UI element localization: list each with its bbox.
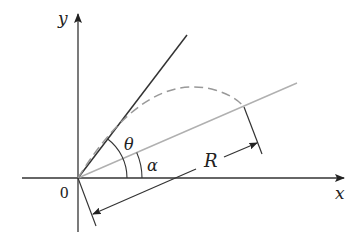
x-axis-label: x xyxy=(335,183,345,203)
launch-direction-line xyxy=(78,35,187,178)
incline-line xyxy=(78,83,297,178)
range-arrow-upper xyxy=(224,143,257,157)
alpha-arc xyxy=(137,153,142,179)
origin-label: 0 xyxy=(60,183,69,202)
theta-label: θ xyxy=(124,135,134,154)
trajectory-dashed xyxy=(78,87,244,178)
projectile-diagram: y x 0 θ α R xyxy=(0,0,361,249)
y-axis-label: y xyxy=(57,8,68,28)
range-extension-start xyxy=(78,178,96,226)
range-label: R xyxy=(203,150,218,171)
range-arrow-lower xyxy=(93,169,196,214)
alpha-label: α xyxy=(147,156,158,175)
